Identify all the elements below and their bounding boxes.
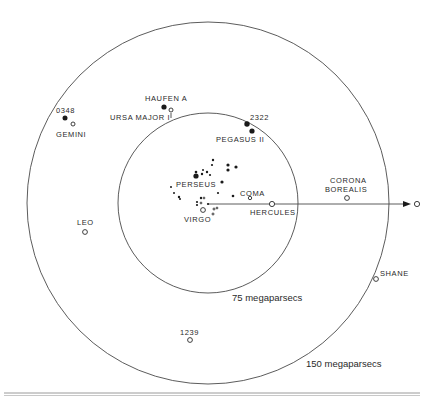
label-coma: COMA bbox=[240, 189, 265, 198]
cluster-leo bbox=[83, 230, 88, 235]
label-ursa-major: URSA MAJOR I bbox=[110, 113, 170, 122]
virgo-group bbox=[196, 197, 218, 215]
cluster-virgo bbox=[201, 208, 206, 213]
label-gemini: GEMINI bbox=[56, 130, 86, 139]
supercluster-diagram: HAUFEN A URSA MAJOR I 0348 GEMINI 2322 P… bbox=[0, 0, 437, 403]
label-hercules: HERCULES bbox=[250, 208, 296, 217]
label-haufen-a: HAUFEN A bbox=[145, 94, 187, 103]
label-leo: LEO bbox=[77, 218, 94, 227]
cluster-corona-borealis bbox=[345, 196, 350, 201]
cluster-haufen-a bbox=[161, 104, 166, 109]
label-corona: CORONA bbox=[330, 176, 367, 185]
cluster-gemini bbox=[71, 122, 75, 126]
label-0348: 0348 bbox=[56, 106, 75, 115]
arrowhead-icon bbox=[403, 201, 411, 207]
label-pegasus-ii: PEGASUS II bbox=[216, 135, 265, 144]
label-shane: SHANE bbox=[380, 269, 409, 278]
cluster-shane bbox=[374, 277, 379, 282]
label-borealis: BOREALIS bbox=[325, 185, 367, 194]
label-2322: 2322 bbox=[250, 113, 269, 122]
label-1239: 1239 bbox=[180, 328, 199, 337]
arrow-end-open-circle bbox=[414, 201, 419, 206]
label-150-megaparsecs: 150 megaparsecs bbox=[306, 358, 382, 369]
cluster-pegasus-ii bbox=[249, 128, 254, 133]
label-75-megaparsecs: 75 megaparsecs bbox=[232, 292, 302, 303]
label-perseus: PERSEUS bbox=[176, 180, 216, 189]
label-virgo: VIRGO bbox=[184, 215, 211, 224]
cluster-0348 bbox=[63, 116, 68, 121]
cluster-1239 bbox=[188, 338, 193, 343]
cluster-hercules bbox=[269, 201, 274, 206]
cluster-ursa-major bbox=[169, 108, 173, 112]
cluster-coma bbox=[248, 196, 251, 199]
cluster-2322 bbox=[244, 121, 249, 126]
